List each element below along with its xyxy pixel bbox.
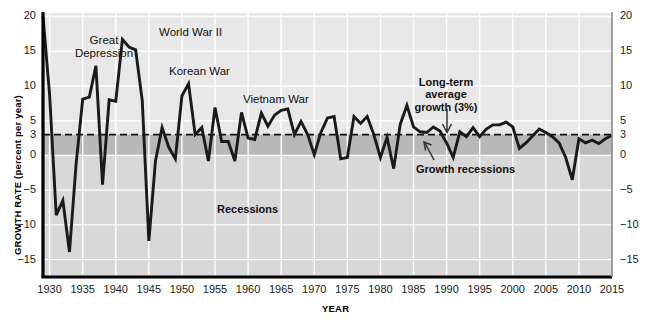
long-term-line1: Long-term [396,76,496,88]
y-axis-tick-left-minus5: −5 [2,184,36,195]
y-axis-tick-left-10: 10 [2,80,36,91]
y-axis-tick-left-5: 5 [2,115,36,126]
y-axis-tick-right-10: 10 [620,80,648,91]
y-axis-tick-right-20: 20 [620,10,648,21]
annotation-world-war-ii: World War II [159,26,222,39]
growth-recession-band [43,135,612,156]
long-term-line2: average [396,88,496,100]
great-depression-line2: Depression [61,47,147,60]
annotation-recessions: Recessions [217,203,278,215]
x-axis-title: YEAR [322,303,349,314]
annotation-growth-recessions: Growth recessions [416,163,515,175]
y-axis-tick-left-15: 15 [2,45,36,56]
y-axis-tick-right-0: 0 [620,149,648,160]
annotation-korean-war: Korean War [169,65,230,78]
annotation-vietnam-war: Vietnam War [243,93,309,106]
y-axis-tick-left-minus10: −10 [2,219,36,230]
annotation-great-depression: Great Depression [61,34,147,60]
y-axis-tick-left-minus15: −15 [2,254,36,265]
x-axis-tick-2015: 2015 [592,284,632,295]
recession-band [43,155,612,277]
y-axis-tick-left-0: 0 [2,149,36,160]
chart-page: GROWTH RATE (percent per year) YEAR Grea… [0,0,649,327]
y-axis-tick-left-20: 20 [2,10,36,21]
long-term-line3: growth (3%) [396,101,496,113]
y-axis-tick-right-3: 3 [620,129,648,140]
y-axis-tick-right-5: 5 [620,115,648,126]
annotation-long-term-average-growth: Long-term average growth (3%) [396,76,496,113]
y-axis-tick-right-minus10: −10 [620,219,648,230]
y-axis-tick-left-3: 3 [2,129,36,140]
chart-figure: GROWTH RATE (percent per year) YEAR Grea… [0,0,649,327]
y-axis-tick-right-minus15: −15 [620,254,648,265]
y-axis-tick-right-minus5: −5 [620,184,648,195]
y-axis-tick-right-15: 15 [620,45,648,56]
great-depression-line1: Great [61,34,147,47]
